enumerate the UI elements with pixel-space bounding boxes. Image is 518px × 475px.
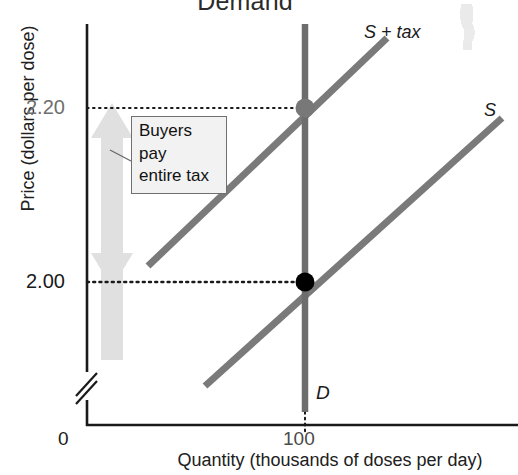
axis-break-icon: [76, 372, 97, 404]
equilibrium-marker: [296, 273, 315, 292]
callout-line-1: Buyers pay: [139, 120, 219, 165]
tax-incidence-arrow: [91, 103, 133, 360]
callout-line-2: entire tax: [139, 165, 219, 188]
plot-area: [0, 0, 518, 475]
curve-label-demand: D: [316, 382, 330, 404]
curve-label-supply-plus-tax: S + tax: [364, 22, 421, 43]
supply-curve: [205, 118, 502, 386]
buyers-pay-callout: Buyers pay entire tax: [131, 116, 227, 194]
equilibrium-with-tax-marker: [296, 99, 315, 118]
curve-label-supply: S: [484, 100, 496, 121]
demand-tax-chart-figure: Demand Price (dollars per dose) Quantity…: [0, 0, 518, 475]
